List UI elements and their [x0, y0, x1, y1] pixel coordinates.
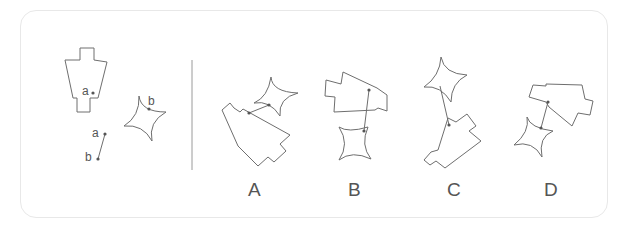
question-tower-shape: a	[65, 48, 107, 112]
option-c[interactable]: C	[424, 57, 481, 200]
option-c-label: C	[447, 179, 461, 200]
option-d-label: D	[544, 179, 558, 200]
question-rod: a b	[85, 126, 107, 164]
option-b[interactable]: B	[325, 72, 387, 200]
question-star-shape: b	[124, 94, 166, 141]
point-b-label: b	[148, 94, 155, 108]
rod-b-label: b	[85, 150, 92, 164]
puzzle-diagram: a b a b A B C	[0, 0, 627, 227]
option-a[interactable]: A	[222, 77, 298, 200]
option-a-label: A	[248, 179, 261, 200]
point-a-label: a	[82, 84, 89, 98]
rod-a-label: a	[92, 126, 99, 140]
option-b-label: B	[348, 179, 361, 200]
option-d[interactable]: D	[514, 84, 593, 200]
